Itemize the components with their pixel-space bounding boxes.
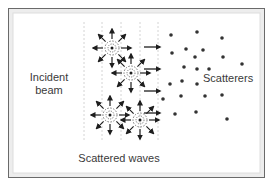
- scatterer-dot: [193, 55, 197, 59]
- scatterer-dot: [169, 33, 173, 37]
- incident-beam-label-line1: Incident: [30, 71, 69, 83]
- scatterer-dot: [168, 82, 172, 86]
- scatterer-dot: [182, 65, 186, 69]
- scatter-center-dot: [130, 72, 133, 75]
- scatterer-dot: [203, 94, 207, 98]
- scatterer-dot: [184, 47, 188, 51]
- scatterer-dot: [173, 112, 177, 116]
- scattered-waves-label: Scattered waves: [78, 152, 160, 164]
- scattering-source: [112, 54, 150, 92]
- scatterer-dot: [170, 51, 174, 55]
- scatterer-dot: [240, 62, 244, 66]
- scatterer-dot: [225, 117, 229, 121]
- scatterer-dot: [195, 30, 199, 34]
- scatterer-dot: [161, 97, 165, 101]
- scattering-diagram: Incident beam Scatterers Scattered waves: [0, 0, 272, 188]
- scattering-source: [91, 96, 129, 134]
- scatterer-dot: [180, 79, 184, 83]
- scatter-center-dot: [111, 47, 114, 50]
- scatterer-dot: [194, 110, 198, 114]
- scatterer-dot: [221, 55, 225, 59]
- scatterers-label: Scatterers: [203, 72, 254, 84]
- scatterer-dot: [195, 67, 199, 71]
- diagram: Incident beam Scatterers Scattered waves: [0, 0, 272, 188]
- scatterer-dot: [195, 82, 199, 86]
- scatterer-dot: [179, 94, 183, 98]
- scattering-source: [93, 29, 131, 67]
- scatterer-dot: [207, 67, 211, 71]
- scattering-source: [121, 101, 159, 139]
- incident-beam-label-line2: beam: [35, 84, 63, 96]
- scatter-center-dot: [139, 119, 142, 122]
- scatterer-dot: [201, 48, 205, 52]
- scatter-center-dot: [109, 114, 112, 117]
- scatterer-dot: [220, 36, 224, 40]
- scatterer-dot: [220, 93, 224, 97]
